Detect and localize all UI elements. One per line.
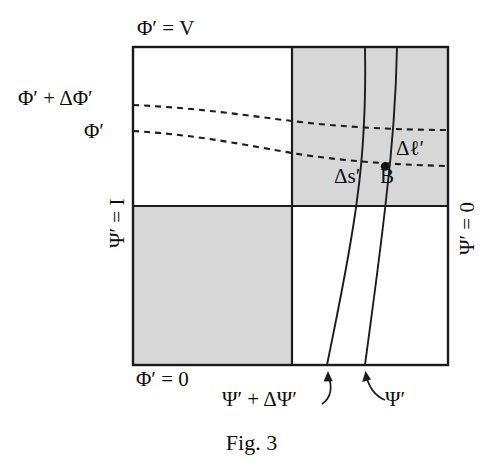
boundary-label-left: Ψ′ = I	[107, 199, 128, 248]
equipotential-label-lower: Φ′	[84, 121, 104, 142]
annotation-point-b: B	[380, 166, 394, 187]
figure-caption: Fig. 3	[0, 432, 503, 454]
boundary-label-right: Ψ′ = 0	[457, 202, 478, 255]
arrow-to-streamline-psi-plus-delta-psi	[322, 371, 333, 404]
equipotential-label-upper: Φ′ + ΔΦ′	[18, 88, 93, 109]
streamline-label-left: Ψ′ + ΔΨ′	[222, 389, 297, 410]
shaded-quadrant-bottom-left	[133, 206, 292, 365]
annotation-arc-length: Δℓ′	[396, 138, 424, 159]
boundary-label-bottom: Φ′ = 0	[136, 369, 189, 390]
annotation-stream-spacing: Δs′	[334, 166, 360, 187]
shaded-quadrant-top-right	[292, 47, 448, 206]
arrow-to-streamline-psi	[362, 371, 385, 400]
streamline-label-right: Ψ′	[385, 389, 405, 410]
figure-page: Φ′ = V Φ′ = 0 Ψ′ = I Ψ′ = 0 Φ′ + ΔΦ′ Φ′ …	[0, 0, 503, 476]
boundary-label-top: Φ′ = V	[137, 18, 194, 39]
